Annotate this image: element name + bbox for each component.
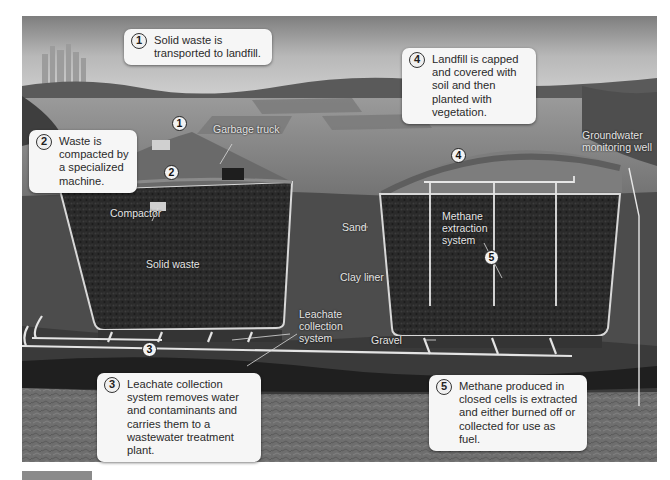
- label-clay-liner: Clay liner: [340, 271, 384, 283]
- callout-step-4: 4 Landfill is capped and covered with so…: [402, 48, 536, 124]
- callout-step-3-text: Leachate collection system removes water…: [127, 378, 239, 456]
- step-number-2-icon: 2: [36, 134, 52, 150]
- label-groundwater-monitoring-well: Groundwater monitoring well: [582, 129, 670, 153]
- label-gravel: Gravel: [371, 334, 402, 346]
- callout-step-2: 2 Waste is compacted by a specialized ma…: [29, 130, 137, 193]
- step-marker-2: 2: [164, 165, 179, 180]
- callout-step-5-text: Methane produced in closed cells is extr…: [459, 380, 577, 445]
- step-number-1-icon: 1: [131, 33, 147, 49]
- step-number-3-icon: 3: [104, 377, 120, 393]
- step-number-4-icon: 4: [409, 52, 425, 68]
- step-marker-3: 3: [142, 342, 157, 357]
- callout-step-4-text: Landfill is capped and covered with soil…: [432, 53, 518, 118]
- callout-step-2-text: Waste is compacted by a specialized mach…: [59, 135, 129, 187]
- label-sand: Sand: [342, 221, 367, 233]
- step-marker-5: 5: [484, 250, 499, 265]
- callout-step-1: 1 Solid waste is transported to landfill…: [124, 29, 272, 65]
- callout-step-1-text: Solid waste is transported to landfill.: [154, 34, 261, 59]
- label-compactor: Compactor: [110, 207, 161, 219]
- callout-step-5: 5 Methane produced in closed cells is ex…: [429, 375, 587, 451]
- label-methane-extraction-system: Methane extraction system: [442, 210, 490, 246]
- step-marker-1: 1: [172, 116, 187, 131]
- label-solid-waste: Solid waste: [146, 258, 200, 270]
- label-garbage-truck: Garbage truck: [213, 123, 280, 135]
- step-marker-4: 4: [451, 148, 466, 163]
- label-leachate-collection-system: Leachate collection system: [299, 308, 349, 344]
- figure-tab: [22, 471, 92, 480]
- step-number-5-icon: 5: [436, 379, 452, 395]
- callout-step-3: 3 Leachate collection system removes wat…: [97, 373, 261, 462]
